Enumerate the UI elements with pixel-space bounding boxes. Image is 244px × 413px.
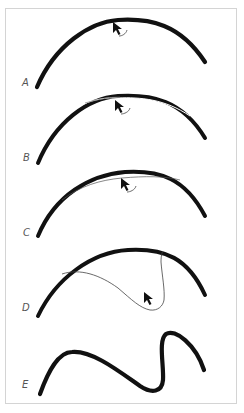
panel-d xyxy=(38,250,205,316)
cursor-icon xyxy=(115,100,124,113)
cursor-icon xyxy=(144,292,153,305)
motion-hint-icon xyxy=(121,108,130,114)
panel-label-e: E xyxy=(22,380,28,390)
arc-stroke-a xyxy=(37,20,205,87)
panel-b xyxy=(38,96,205,163)
motion-hint-icon xyxy=(119,30,127,36)
panel-label-b: B xyxy=(23,153,30,163)
lasso-line-b xyxy=(75,98,190,116)
panel-c xyxy=(38,172,205,236)
figure-canvas xyxy=(0,0,244,413)
panel-label-c: C xyxy=(23,228,30,238)
squiggle-stroke-e xyxy=(40,333,204,394)
panel-e xyxy=(40,333,204,394)
arc-stroke-d xyxy=(38,250,205,316)
cursor-icon xyxy=(121,178,130,191)
motion-hint-icon xyxy=(127,186,136,192)
cursor-icon xyxy=(113,22,122,35)
panel-label-d: D xyxy=(22,303,30,313)
panel-label-a: A xyxy=(22,78,29,88)
panel-a xyxy=(37,20,205,87)
